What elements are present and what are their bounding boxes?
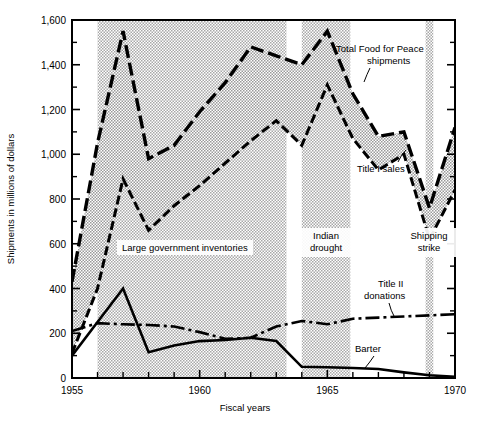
- barter-leader-line: [365, 356, 374, 368]
- line-chart: 02004006008001,0001,2001,4001,6001955196…: [0, 0, 478, 423]
- chart-container: 02004006008001,0001,2001,4001,6001955196…: [0, 0, 478, 423]
- y-tick-label: 1,400: [41, 60, 66, 71]
- y-tick-label: 1,200: [41, 105, 66, 116]
- shipping-strike-label: Shipping strike: [398, 228, 460, 257]
- x-tick-label: 1960: [189, 385, 212, 396]
- y-tick-label: 800: [49, 194, 66, 205]
- total-food-for-peace-leader-line: [364, 68, 370, 82]
- title-i-sales-label: Title I sales: [357, 163, 405, 174]
- svg-text:Indian: Indian: [313, 230, 339, 241]
- y-axis-title: Shipments in millions of dollars: [5, 134, 16, 265]
- large-government-inventories-label: Large government inventories: [117, 240, 253, 255]
- x-tick-label: 1965: [316, 385, 339, 396]
- total-food-for-peace-label-line2: shipments: [367, 55, 411, 66]
- barter-label: Barter: [355, 343, 381, 354]
- x-tick-label: 1955: [61, 385, 84, 396]
- indian-drought-label: Indian drought: [299, 228, 354, 257]
- y-tick-label: 400: [49, 284, 66, 295]
- y-tick-label: 200: [49, 328, 66, 339]
- y-tick-label: 0: [60, 373, 66, 384]
- total-food-for-peace-label: Total Food for Peace: [336, 43, 424, 54]
- svg-text:drought: drought: [310, 242, 343, 253]
- x-axis-title: Fiscal years: [220, 402, 271, 413]
- title-ii-donations-label-line2: donations: [364, 290, 405, 301]
- y-tick-label: 600: [49, 239, 66, 250]
- svg-text:Large government inventories: Large government inventories: [122, 242, 248, 253]
- svg-text:Shipping: Shipping: [411, 230, 448, 241]
- title-ii-donations-label: Title II: [378, 278, 404, 289]
- y-tick-label: 1,000: [41, 149, 66, 160]
- y-tick-label: 1,600: [41, 15, 66, 26]
- svg-text:strike: strike: [418, 242, 441, 253]
- title-ii-donations-leader-line: [389, 303, 394, 316]
- x-tick-label: 1970: [444, 385, 467, 396]
